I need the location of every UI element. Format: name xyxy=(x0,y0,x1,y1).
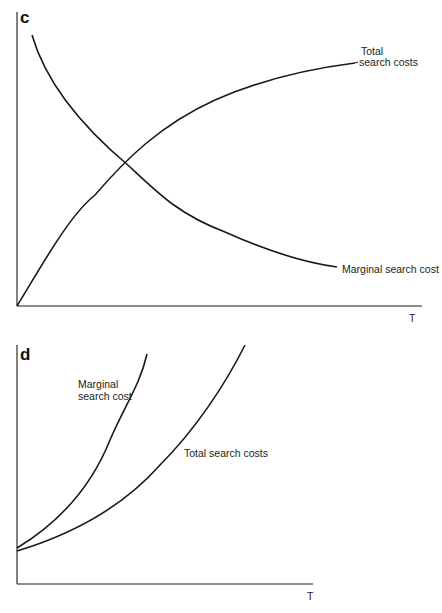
panel-c-x-axis-label: T xyxy=(409,312,415,324)
panel-d-x-axis-label: T xyxy=(307,590,313,602)
panel-d-label-total: Total search costs xyxy=(184,447,268,459)
panel-d-label-marginal-line2: search cost xyxy=(78,390,132,402)
panel-d-letter: d xyxy=(20,346,30,363)
chart-canvas xyxy=(0,0,442,613)
panel-d-plot xyxy=(17,345,313,584)
panel-c-label-marginal: Marginal search cost xyxy=(342,263,439,275)
panel-c-total-leader xyxy=(355,62,358,63)
panel-c-label-total-line2: search costs xyxy=(359,56,418,68)
panel-c-letter: c xyxy=(20,9,29,26)
panel-c-marginal-search-cost-curve xyxy=(32,35,337,267)
panel-c-total-search-costs-curve xyxy=(17,63,355,306)
panel-d-label-marginal-line1: Marginal xyxy=(78,378,118,390)
